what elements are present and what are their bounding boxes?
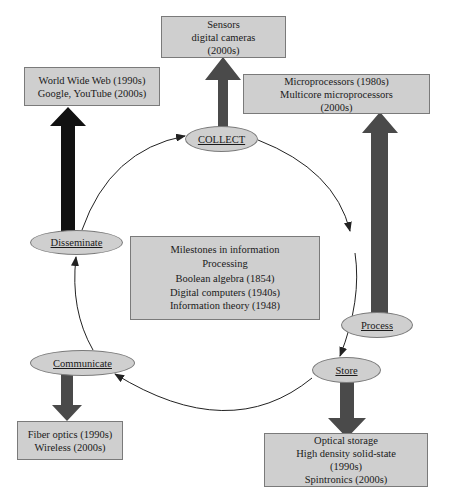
center-title-line1: Milestones in information <box>170 243 279 257</box>
stage-label: COLLECT <box>198 134 245 145</box>
thick-arrow-process-up <box>362 112 398 314</box>
thick-arrow-communicate-down <box>52 370 82 421</box>
stage-store-link[interactable]: Store <box>312 357 381 383</box>
center-item: Digital computers (1940s) <box>170 286 280 300</box>
milestone-box-communicate: Fiber optics (1990s) Wireless (2000s) <box>17 421 123 460</box>
box-line: World Wide Web (1990s) <box>39 74 146 87</box>
center-title-line2: Processing <box>202 257 248 271</box>
box-line: Wireless (2000s) <box>34 441 105 454</box>
milestone-box-process: Microprocessors (1980s) Multicore microp… <box>243 74 430 114</box>
center-milestones-box: Milestones in information Processing Boo… <box>130 236 320 320</box>
box-line: Google, YouTube (2000s) <box>38 87 147 100</box>
cycle-arrow-process-to-store <box>340 253 357 356</box>
center-item: Boolean algebra (1854) <box>175 272 274 286</box>
box-line: Sensors <box>207 18 240 31</box>
center-item: Information theory (1948) <box>170 299 280 313</box>
milestone-box-disseminate: World Wide Web (1990s) Google, YouTube (… <box>24 67 160 106</box>
stage-label: Communicate <box>53 358 112 369</box>
box-line: Fiber optics (1990s) <box>28 428 113 441</box>
milestone-box-store: Optical storage High density solid-state… <box>264 433 428 487</box>
stage-label: Disseminate <box>51 237 103 248</box>
box-line: High density solid-state <box>296 447 396 460</box>
stage-process-link[interactable]: Process <box>341 312 413 338</box>
cycle-arrow-store-to-communicate <box>115 374 312 411</box>
box-line: digital cameras <box>192 31 256 44</box>
box-line: (1990s) <box>330 460 362 473</box>
stage-collect-link[interactable]: COLLECT <box>185 126 258 152</box>
cycle-arrow-collect-to-process <box>258 140 350 231</box>
milestone-box-collect: Sensors digital cameras (2000s) <box>161 16 286 58</box>
box-line: Multicore microprocessors <box>280 88 393 101</box>
cycle-arrow-communicate-to-disseminate <box>75 257 93 350</box>
box-line: Optical storage <box>314 434 378 447</box>
stage-label: Process <box>361 320 393 331</box>
cycle-arrow-disseminate-to-collect <box>82 136 185 230</box>
box-line: (2000s) <box>207 44 239 57</box>
thick-arrow-collect-up <box>205 57 241 128</box>
box-line: Microprocessors (1980s) <box>284 75 389 88</box>
box-line: (2000s) <box>320 101 352 114</box>
stage-label: Store <box>335 365 357 376</box>
stage-disseminate-link[interactable]: Disseminate <box>30 230 123 255</box>
stage-communicate-link[interactable]: Communicate <box>30 350 135 376</box>
thick-arrow-store-down <box>328 380 366 438</box>
thick-arrow-disseminate-up <box>50 107 86 236</box>
box-line: Spintronics (2000s) <box>305 473 388 486</box>
